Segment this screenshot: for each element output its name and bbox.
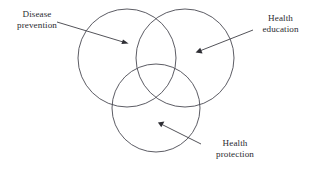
label-health-education: Health education — [252, 13, 309, 34]
arrow-disease-prevention-head — [121, 40, 128, 44]
circle-health-education — [136, 9, 234, 107]
label-health-protection-line1: Health — [203, 138, 267, 149]
label-disease-prevention-line2: prevention — [6, 20, 68, 31]
label-health-education-line1: Health — [252, 13, 309, 24]
label-disease-prevention-line1: Disease — [6, 9, 68, 20]
circle-disease-prevention — [78, 9, 176, 107]
label-health-education-line2: education — [252, 24, 309, 35]
venn-diagram: Disease prevention Health education Heal… — [0, 0, 311, 173]
label-health-protection-line2: protection — [203, 149, 267, 160]
arrow-health-protection — [158, 122, 201, 144]
circle-health-protection — [112, 64, 200, 152]
label-health-protection: Health protection — [203, 138, 267, 159]
arrow-health-education — [196, 30, 253, 54]
arrow-health-education-line — [200, 30, 253, 51]
label-disease-prevention: Disease prevention — [6, 9, 68, 30]
arrow-health-protection-head — [158, 122, 165, 128]
